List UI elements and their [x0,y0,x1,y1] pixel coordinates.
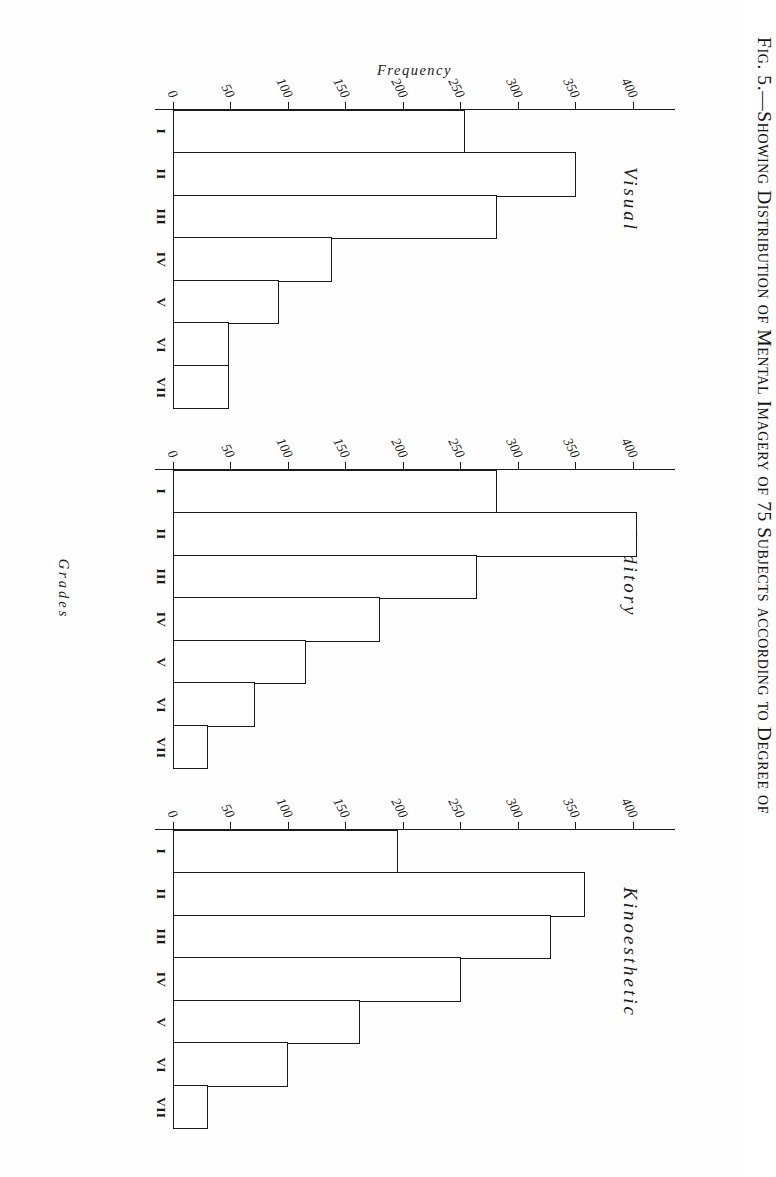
y-tick-label-100: 100 [266,63,296,101]
bar-group-kinoesthetic [174,830,653,1129]
y-tick-label-250: 250 [438,63,468,101]
y-tick-150 [346,822,347,830]
x-tick-label-VI: VI [143,683,169,726]
y-tick-350 [576,102,577,110]
y-tick-label-0: 0 [151,423,181,461]
bar [174,152,576,196]
y-tick-250 [461,822,462,830]
bar [174,110,465,154]
y-tick-label-400: 400 [611,423,641,461]
x-tick-label-IV: IV [143,958,169,1001]
y-tick-200 [403,822,404,830]
bar [174,1042,288,1086]
bar [174,279,279,323]
x-tick-label-I: I [143,110,169,153]
y-tick-label-50: 50 [208,63,238,101]
y-tick-label-300: 300 [496,63,526,101]
y-tick-50 [231,822,232,830]
panel-row: Visual Frequency 40035030025020015010050… [113,49,693,1129]
x-tick-label-II: II [143,152,169,195]
x-tick-label-II: II [143,512,169,555]
y-tick-label-350: 350 [553,783,583,821]
x-tick-label-V: V [143,640,169,683]
x-tick-label-I: I [143,830,169,873]
panel-visual: Visual Frequency 40035030025020015010050… [113,49,693,409]
y-tick-300 [518,822,519,830]
y-tick-label-350: 350 [553,423,583,461]
y-tick-label-250: 250 [438,423,468,461]
y-tick-label-150: 150 [323,783,353,821]
bar [174,914,551,958]
y-tick-label-0: 0 [151,63,181,101]
bar-group-auditory [174,470,653,769]
y-tick-300 [518,102,519,110]
x-tick-label-VI: VI [143,1043,169,1086]
y-tick-150 [346,462,347,470]
y-tick-label-100: 100 [266,783,296,821]
y-tick-label-0: 0 [151,783,181,821]
y-tick-label-50: 50 [208,783,238,821]
x-tick-label-IV: IV [143,238,169,281]
y-tick-label-400: 400 [611,783,641,821]
bar [174,597,380,641]
x-tick-label-VI: VI [143,323,169,366]
y-tick-200 [403,462,404,470]
y-tick-350 [576,462,577,470]
y-tick-label-400: 400 [611,63,641,101]
y-tick-250 [461,102,462,110]
panel-auditory: Auditory 400350300250200150100500 IIIIII… [113,409,693,769]
y-tick-100 [288,102,289,110]
y-tick-label-100: 100 [266,423,296,461]
x-tick-label-III: III [143,195,169,238]
x-tick-labels-kinoesthetic: IIIIIIIVVVIVII [143,830,169,1129]
x-tick-labels-visual: IIIIIIIVVVIVII [143,110,169,409]
y-tick-label-200: 200 [381,783,411,821]
bar [174,682,255,726]
y-tick-label-150: 150 [323,63,353,101]
bar [174,237,332,281]
y-tick-label-300: 300 [496,423,526,461]
bar [174,872,585,916]
x-tick-label-VII: VII [143,366,169,409]
bar [174,999,360,1043]
y-tick-200 [403,102,404,110]
y-tick-50 [231,462,232,470]
y-tick-label-350: 350 [553,63,583,101]
y-tick-label-150: 150 [323,423,353,461]
bar [174,957,461,1001]
y-tick-label-50: 50 [208,423,238,461]
y-tick-label-200: 200 [381,423,411,461]
bar [174,639,306,683]
figure-caption: Fig. 5.—Showing Distribution of Mental I… [744,37,776,1177]
y-tick-400 [633,822,634,830]
x-tick-label-V: V [143,280,169,323]
y-tick-350 [576,822,577,830]
bar [174,830,398,874]
bar [174,512,637,556]
panel-kinoesthetic: Kinoesthetic 400350300250200150100500 II… [113,769,693,1129]
bar [174,1084,208,1128]
x-tick-label-VII: VII [143,1086,169,1129]
bar [174,322,229,366]
x-tick-label-II: II [143,872,169,915]
x-tick-label-V: V [143,1000,169,1043]
x-tick-label-III: III [143,915,169,958]
y-tick-label-250: 250 [438,783,468,821]
x-tick-label-I: I [143,470,169,513]
y-tick-50 [231,102,232,110]
y-tick-300 [518,462,519,470]
x-tick-labels-auditory: IIIIIIIVVVIVII [143,470,169,769]
y-tick-label-300: 300 [496,783,526,821]
y-tick-400 [633,462,634,470]
x-tick-label-VII: VII [143,726,169,769]
y-tick-100 [288,822,289,830]
bar-group-visual [174,110,653,409]
bar [174,724,208,768]
bar [174,194,497,238]
y-tick-400 [633,102,634,110]
figure-stage: Visual Frequency 40035030025020015010050… [53,49,693,1129]
x-tick-label-IV: IV [143,598,169,641]
y-tick-250 [461,462,462,470]
bar [174,554,477,598]
